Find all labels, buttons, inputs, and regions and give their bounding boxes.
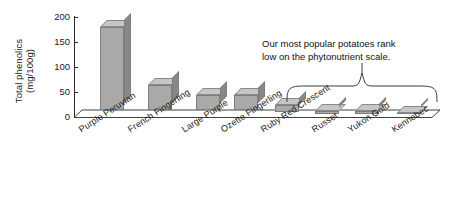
y-tick-label-50: 50 — [30, 87, 70, 97]
y-axis-title-line1: Total phenolics — [13, 16, 24, 126]
bar-side-face — [124, 13, 131, 103]
y-tick-150 — [74, 42, 78, 43]
phenolics-bar-chart: Total phenolics (mg/100g) 200 150 100 50… — [0, 0, 459, 210]
y-tick-200 — [74, 17, 78, 18]
bar-top-face — [234, 88, 265, 95]
y-tick-100 — [74, 67, 78, 68]
bar-top-face — [196, 88, 227, 95]
annotation-callout: Our most popular potatoes rank low on th… — [262, 38, 444, 63]
annotation-brace — [283, 62, 443, 104]
annotation-line1: Our most popular potatoes rank — [262, 38, 444, 51]
bar-top-face — [148, 78, 179, 85]
y-tick-label-150: 150 — [30, 37, 70, 47]
y-tick-label-100: 100 — [30, 62, 70, 72]
y-tick-50 — [74, 92, 78, 93]
bar-top-face — [100, 20, 131, 27]
y-tick-label-0: 0 — [30, 112, 70, 122]
y-tick-label-200: 200 — [30, 12, 70, 22]
